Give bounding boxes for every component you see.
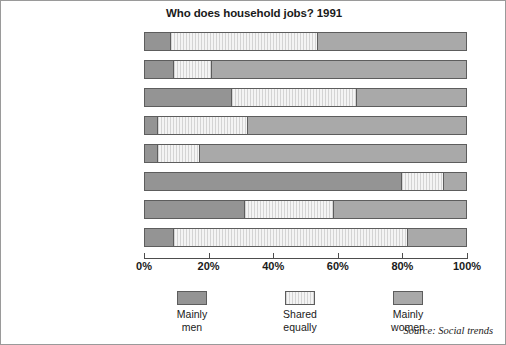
bar-segment-mainly-men [145, 229, 174, 246]
bar-segment-mainly-men [145, 145, 158, 162]
bar-segment-shared-equally [402, 173, 444, 190]
bar-segment-mainly-women [212, 61, 466, 78]
legend-label: men [144, 321, 240, 334]
bar-segment-mainly-women [334, 201, 466, 218]
bar-segment-mainly-men [145, 201, 245, 218]
x-axis-tick-label: 100% [453, 260, 481, 272]
plot-area: ShoppingMaking evening mealWashing dishe… [144, 32, 467, 254]
bar-segment-mainly-men [145, 173, 402, 190]
bar-row [144, 144, 467, 163]
legend-swatch [177, 291, 207, 305]
x-axis-tick [402, 253, 403, 259]
x-axis-tick [144, 253, 145, 259]
bar-row [144, 32, 467, 51]
legend-swatch [285, 291, 315, 305]
legend-label: Shared [252, 308, 348, 321]
x-axis-tick [209, 253, 210, 259]
bar-segment-shared-equally [174, 229, 408, 246]
x-axis-line [144, 258, 467, 259]
bar-segment-shared-equally [158, 145, 200, 162]
legend-item: Mainlymen [144, 291, 240, 333]
bar-row [144, 200, 467, 219]
bar-segment-mainly-women [357, 89, 466, 106]
source-note: Source: Social trends [403, 325, 493, 336]
x-axis-tick [338, 253, 339, 259]
legend-label: Mainly [360, 308, 456, 321]
bar-segment-mainly-men [145, 61, 174, 78]
bar-segment-shared-equally [171, 33, 319, 50]
legend-item: Sharedequally [252, 291, 348, 333]
bar-segment-shared-equally [158, 117, 248, 134]
bar-segment-shared-equally [232, 89, 357, 106]
bar-segment-mainly-women [200, 145, 466, 162]
bar-segment-mainly-women [444, 173, 466, 190]
legend-swatch [393, 291, 423, 305]
bar-segment-mainly-women [408, 229, 466, 246]
bar-segment-mainly-men [145, 33, 171, 50]
chart-title: Who does household jobs? 1991 [1, 7, 506, 19]
bar-segment-mainly-men [145, 117, 158, 134]
bar-row [144, 172, 467, 191]
bar-row [144, 116, 467, 135]
bar-segment-mainly-women [248, 117, 466, 134]
bar-segment-shared-equally [245, 201, 335, 218]
legend-label: Mainly [144, 308, 240, 321]
bar-row [144, 228, 467, 247]
x-axis-tick-label: 80% [391, 260, 413, 272]
chart-figure: Who does household jobs? 1991 ShoppingMa… [0, 0, 506, 345]
bar-segment-shared-equally [174, 61, 213, 78]
bar-row [144, 88, 467, 107]
x-axis-tick-label: 0% [136, 260, 152, 272]
x-axis-tick-label: 40% [262, 260, 284, 272]
bar-segment-mainly-women [318, 33, 466, 50]
x-axis-tick-label: 60% [327, 260, 349, 272]
legend-label: equally [252, 321, 348, 334]
bar-segment-mainly-men [145, 89, 232, 106]
x-axis-tick-label: 20% [198, 260, 220, 272]
x-axis-tick [467, 253, 468, 259]
bar-row [144, 60, 467, 79]
x-axis-tick [273, 253, 274, 259]
